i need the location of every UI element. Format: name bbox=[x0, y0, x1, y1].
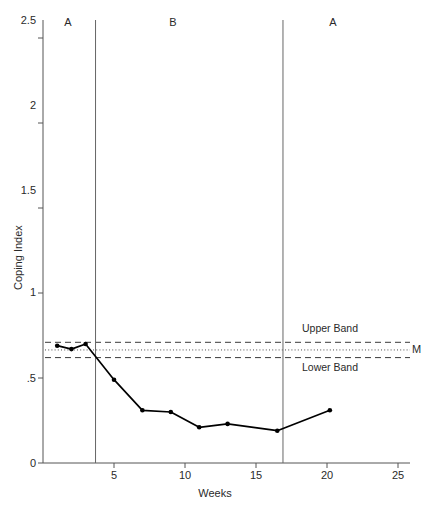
x-tick-label-10: 10 bbox=[171, 469, 199, 481]
x-tick-label-15: 15 bbox=[242, 469, 270, 481]
mean-line-label: M bbox=[412, 343, 421, 355]
y-tick-label-2-5: 2.5 bbox=[2, 14, 36, 26]
x-tick-label-25: 25 bbox=[384, 469, 412, 481]
y-tick-label-2: 2 bbox=[2, 99, 36, 111]
y-axis-title: Coping Index bbox=[12, 225, 24, 290]
phase-label-b: B bbox=[163, 16, 183, 28]
phase-label-a2: A bbox=[323, 16, 343, 28]
x-axis-title: Weeks bbox=[175, 487, 255, 499]
y-tick-label-0: 0 bbox=[2, 457, 36, 469]
y-tick-label-0-5: .5 bbox=[2, 372, 36, 384]
x-tick-label-20: 20 bbox=[313, 469, 341, 481]
upper-band-label: Upper Band bbox=[302, 322, 358, 334]
x-tick-label-5: 5 bbox=[100, 469, 128, 481]
y-tick-label-1-5: 1.5 bbox=[2, 184, 36, 196]
plot-canvas bbox=[0, 0, 426, 511]
lower-band-label: Lower Band bbox=[302, 361, 358, 373]
phase-label-a1: A bbox=[58, 16, 78, 28]
coping-index-chart: 2.5 2 1.5 1 .5 0 5 10 15 20 25 Coping In… bbox=[0, 0, 426, 511]
